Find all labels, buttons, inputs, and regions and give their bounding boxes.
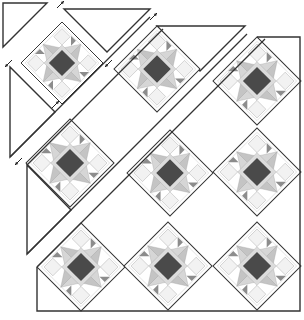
star-block-7 [37, 223, 125, 311]
star-block-8 [124, 222, 212, 310]
star-blocks [21, 22, 301, 311]
star-block-9 [213, 222, 301, 310]
quilt-assembly-diagram [0, 0, 304, 320]
star-block-3 [213, 37, 301, 125]
corner-triangle-top-left [3, 3, 47, 47]
star-block-5 [127, 130, 213, 216]
star-block-6 [213, 128, 301, 216]
